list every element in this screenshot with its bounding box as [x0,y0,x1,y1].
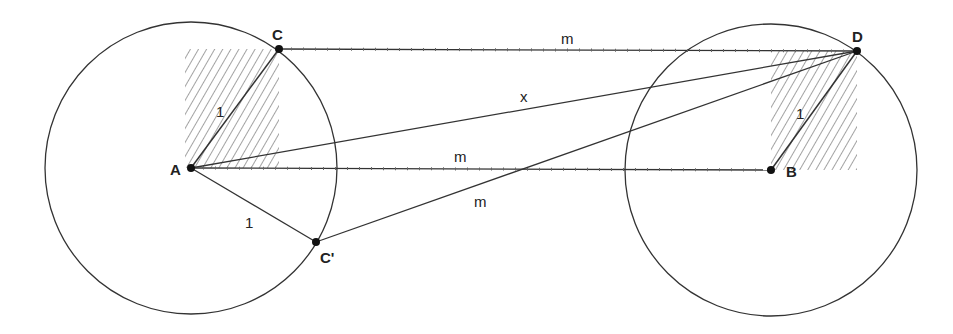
label-d: D [852,29,863,44]
point-b [767,166,775,174]
geometry-diagram [0,0,953,334]
point-c [275,45,283,53]
point-a [187,164,195,172]
label-b: B [786,164,797,179]
label-m-top: m [561,31,574,46]
segment-a-cprime [191,168,316,242]
label-one-a-cprime: 1 [245,215,253,230]
label-c-prime: C' [320,250,334,265]
label-one-ac: 1 [216,104,224,119]
label-a: A [170,162,181,177]
segment-ad [191,51,857,168]
label-m-diag: m [474,194,487,209]
point-c-prime [312,238,320,246]
label-x: x [520,89,528,104]
label-one-bd: 1 [796,106,804,121]
label-m-mid: m [454,149,467,164]
label-c: C [272,27,283,42]
point-d [853,47,861,55]
